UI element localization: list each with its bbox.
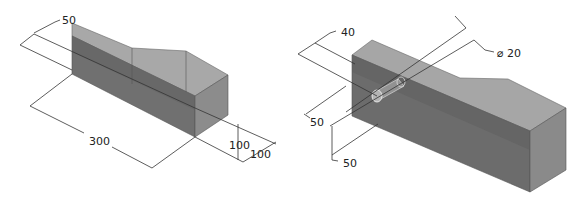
left-dim-100d-label: 100: [250, 148, 271, 161]
right-dim-50v-ext: [332, 124, 378, 155]
right-dim-50v-label: 50: [343, 157, 357, 170]
right-dim-50v-leader: [332, 155, 338, 161]
drawing-canvas: 50 300 100 100: [0, 0, 584, 198]
left-dim-50-line: [20, 34, 34, 45]
left-figure: 50 300 100 100: [20, 14, 276, 168]
right-dim-40-line: [298, 43, 315, 54]
right-dim-dia-leader: [474, 40, 494, 52]
right-dim-dia-label: ⌀ 20: [497, 47, 521, 60]
right-dim-40-leader: [315, 31, 336, 43]
right-figure: 40 ⌀ 20 50 50: [298, 16, 566, 192]
right-dim-dia-tick: [455, 16, 466, 28]
left-dim-50-ext1: [20, 45, 72, 70]
left-dim-300-label: 300: [89, 135, 110, 148]
left-dim-50-leader: [34, 20, 60, 33]
right-dim-40-ext2: [315, 43, 355, 64]
right-dim-40-label: 40: [341, 26, 355, 39]
right-dim-50h-label: 50: [310, 116, 324, 129]
left-dim-50-label: 50: [62, 14, 76, 27]
left-dim-300-line-b: [112, 147, 152, 168]
left-dim-100h-label: 100: [229, 139, 250, 152]
left-dim-300-line-a: [30, 106, 84, 133]
left-dim-300-ext2: [152, 137, 195, 168]
left-dim-300-ext1: [30, 74, 72, 106]
right-dim-50h-line: [306, 86, 346, 114]
